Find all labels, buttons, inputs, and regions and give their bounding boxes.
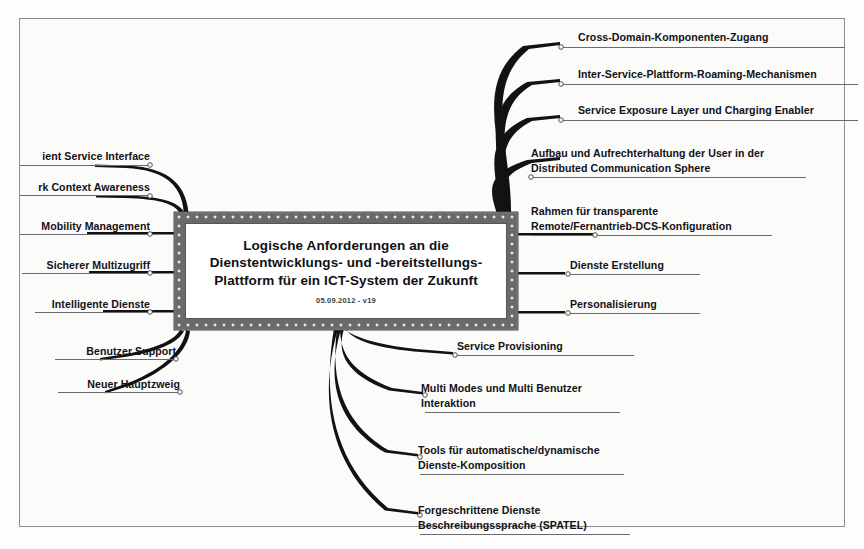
center-node-title: Logische Anforderungen an die Dienstentw… [204,237,489,290]
branch-label-aufbau-aufrechterhaltung-user[interactable]: Aufbau und Aufrechterhaltung der User in… [531,146,764,175]
center-node-inner: Logische Anforderungen an die Dienstentw… [185,223,507,319]
branch-label-sicherer-multizugriff[interactable]: Sicherer Multizugriff [0,258,150,273]
center-node[interactable]: Logische Anforderungen an die Dienstentw… [174,212,518,330]
branch-label-cross-domain-komponenten-zugang[interactable]: Cross-Domain-Komponenten-Zugang [578,30,768,45]
branch-label-neuer-hauptzweig[interactable]: Neuer Hauptzweig [34,377,180,392]
branch-label-tools-automatische-dynamische[interactable]: Tools für automatische/dynamische Dienst… [418,443,600,472]
branch-label-rahmen-fuer-transparente[interactable]: Rahmen für transparente Remote/Fernantri… [531,204,732,233]
branch-label-ient-service-interface[interactable]: ient Service Interface [0,149,150,164]
branch-label-rk-context-awareness[interactable]: rk Context Awareness [0,180,150,195]
branch-label-mobility-management[interactable]: Mobility Management [0,219,150,234]
branch-label-dienste-erstellung[interactable]: Dienste Erstellung [570,258,664,273]
branch-label-inter-service-plattform-roaming[interactable]: Inter-Service-Plattform-Roaming-Mechanis… [578,67,817,82]
branch-label-service-provisioning[interactable]: Service Provisioning [457,339,563,354]
branch-label-multi-modes-multi-benutzer[interactable]: Multi Modes und Multi Benutzer Interakti… [421,381,582,410]
center-node-date: 05.09.2012 - v19 [316,296,376,305]
branch-label-intelligente-dienste[interactable]: Intelligente Dienste [0,297,150,312]
mindmap-canvas: Logische Anforderungen an die Dienstentw… [0,0,864,549]
branch-label-service-exposure-layer[interactable]: Service Exposure Layer und Charging Enab… [578,103,814,118]
branch-label-forgeschrittene-dienste-spatel[interactable]: Forgeschrittene Dienste Beschreibungsspr… [418,503,587,532]
branch-label-benutzer-support[interactable]: Benutzer Support [30,344,176,359]
branch-label-personalisierung[interactable]: Personalisierung [570,297,657,312]
